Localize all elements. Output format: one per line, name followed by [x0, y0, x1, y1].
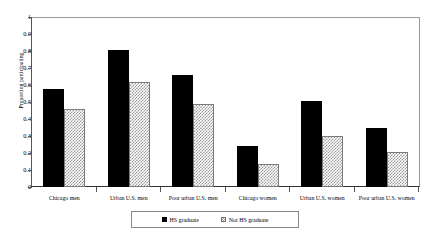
bar-group-poor-urban-us-men [161, 18, 226, 187]
x-tick-cell-1 [97, 187, 162, 192]
x-tick-cell-4 [290, 187, 355, 192]
legend-entry-hs-graduate: HS graduate [162, 217, 199, 223]
chart-legend: HS graduate Not HS graduate [131, 211, 299, 228]
bar-not-hs-graduate-poor-urban-us-men [193, 104, 214, 187]
bar-not-hs-graduate-chicago-men [64, 109, 85, 187]
x-tick-cell-2 [161, 187, 226, 192]
bar-group-chicago-women [226, 18, 291, 187]
bar-hs-graduate-poor-urban-us-men [172, 75, 193, 187]
bar-hs-graduate-urban-us-men [108, 50, 129, 187]
x-label-urban-us-men: Urban U.S. men [97, 194, 162, 206]
x-axis-ticks [32, 187, 419, 192]
bar-chart-figure: Proportion participating 1 0.9 0.8 0.7 0… [0, 0, 430, 242]
bar-group-chicago-men [32, 18, 97, 187]
x-tick-mark-5 [418, 187, 419, 192]
bar-group-poor-urban-us-women [355, 18, 420, 187]
x-axis-labels: Chicago men Urban U.S. men Poor urban U.… [32, 194, 419, 206]
bar-not-hs-graduate-urban-us-women [322, 136, 343, 187]
y-axis: 1 0.9 0.8 0.7 0.6 0.5 0.4 0.3 0.2 0.1 0 [0, 0, 31, 242]
bar-hs-graduate-chicago-women [237, 146, 258, 187]
legend-entry-not-hs-graduate: Not HS graduate [221, 217, 269, 223]
x-label-urban-us-women: Urban U.S. women [290, 194, 355, 206]
legend-label-not-hs-graduate: Not HS graduate [229, 217, 269, 223]
x-tick-cell-3 [226, 187, 291, 192]
legend-swatch-not-hs-graduate-icon [221, 217, 226, 222]
x-label-chicago-men: Chicago men [32, 194, 97, 206]
x-label-poor-urban-us-men: Poor urban U.S. men [161, 194, 226, 206]
bar-not-hs-graduate-urban-us-men [129, 82, 150, 187]
plot-area [32, 18, 419, 187]
bar-group-urban-us-men [97, 18, 162, 187]
bar-hs-graduate-urban-us-women [301, 101, 322, 187]
bar-hs-graduate-chicago-men [43, 89, 64, 187]
x-label-poor-urban-us-women: Poor urban U.S. women [355, 194, 420, 206]
bar-group-urban-us-women [290, 18, 355, 187]
bar-hs-graduate-poor-urban-us-women [366, 128, 387, 187]
x-tick-cell-5 [355, 187, 420, 192]
bar-not-hs-graduate-poor-urban-us-women [387, 152, 408, 187]
legend-swatch-hs-graduate-icon [162, 217, 167, 222]
legend-label-hs-graduate: HS graduate [170, 217, 199, 223]
x-tick-cell-0 [32, 187, 97, 192]
bar-not-hs-graduate-chicago-women [258, 164, 279, 187]
x-label-chicago-women: Chicago women [226, 194, 291, 206]
